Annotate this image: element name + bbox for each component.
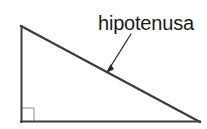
diagram-canvas: hipotenusa bbox=[0, 0, 207, 129]
triangle-diagram-svg: hipotenusa bbox=[0, 0, 207, 129]
hypotenuse-label: hipotenusa bbox=[98, 12, 195, 34]
